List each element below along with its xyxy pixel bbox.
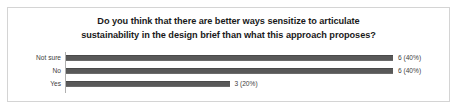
chart-card: Do you think that there are better ways …	[7, 7, 450, 102]
bar-value-not-sure: 6 (40%)	[398, 51, 421, 65]
chart-title-line-1: Do you think that there are better ways …	[97, 16, 359, 26]
bar-track: 6 (40%)	[66, 51, 449, 65]
category-label-not-sure: Not sure	[8, 51, 61, 65]
bar-row: No 6 (40%)	[8, 64, 449, 78]
chart-title: Do you think that there are better ways …	[8, 8, 449, 42]
bar-row: Yes 3 (20%)	[8, 77, 449, 91]
category-label-no: No	[8, 64, 61, 78]
bar-value-no: 6 (40%)	[398, 64, 421, 78]
bar-value-yes: 3 (20%)	[235, 77, 258, 91]
plot-area: Not sure 6 (40%) No 6 (40%) Yes 3 (20%)	[8, 49, 449, 101]
bar-not-sure	[66, 55, 393, 61]
bar-yes	[66, 81, 230, 87]
bar-track: 6 (40%)	[66, 64, 449, 78]
chart-title-line-2: sustainability in the design brief than …	[81, 30, 376, 40]
category-label-yes: Yes	[8, 77, 61, 91]
bar-row: Not sure 6 (40%)	[8, 51, 449, 65]
bar-track: 3 (20%)	[66, 77, 449, 91]
bar-no	[66, 68, 393, 74]
